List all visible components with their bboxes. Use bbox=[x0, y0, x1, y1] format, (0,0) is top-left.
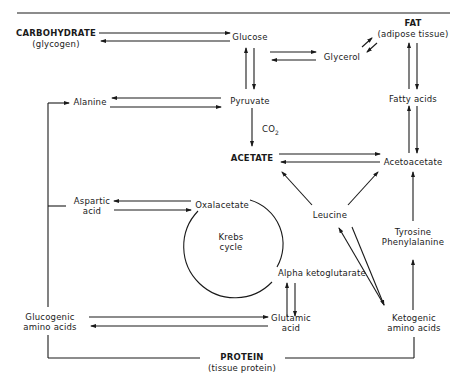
protein-subtitle: (tissue protein) bbox=[208, 363, 276, 373]
co2-label: CO2 bbox=[262, 124, 279, 138]
node-fatty-acids: Fatty acids bbox=[389, 94, 437, 104]
fat-subtitle: (adipose tissue) bbox=[378, 29, 449, 39]
node-glucose: Glucose bbox=[232, 32, 267, 42]
node-aspartic-acid: Aspartic acid bbox=[74, 196, 110, 216]
aspartic-line2: acid bbox=[74, 206, 110, 216]
tyrosine-line1: Tyrosine bbox=[382, 227, 444, 237]
tyrosine-line2: Phenylalanine bbox=[382, 237, 444, 247]
protein-title: PROTEIN bbox=[220, 352, 263, 362]
node-pyruvate: Pyruvate bbox=[230, 96, 269, 106]
glutamic-line2: acid bbox=[271, 323, 311, 333]
glutamic-line1: Glutamic bbox=[271, 313, 311, 323]
node-glutamic-acid: Glutamic acid bbox=[271, 313, 311, 333]
node-alanine: Alanine bbox=[73, 97, 106, 107]
krebs-line1: Krebs bbox=[219, 232, 244, 242]
krebs-line2: cycle bbox=[219, 242, 244, 252]
node-glucogenic-amino-acids: Glucogenic amino acids bbox=[23, 312, 76, 332]
co2-subscript: 2 bbox=[275, 129, 279, 136]
node-leucine: Leucine bbox=[313, 210, 347, 220]
node-tyrosine-phenylalanine: Tyrosine Phenylalanine bbox=[382, 227, 444, 247]
node-krebs-cycle: Krebs cycle bbox=[219, 232, 244, 252]
node-carbohydrate: CARBOHYDRATE bbox=[16, 28, 96, 38]
node-ketogenic-amino-acids: Ketogenic amino acids bbox=[387, 313, 440, 333]
glucogenic-line1: Glucogenic bbox=[23, 312, 76, 322]
carbohydrate-title: CARBOHYDRATE bbox=[16, 28, 96, 38]
aspartic-line1: Aspartic bbox=[74, 196, 110, 206]
glucogenic-line2: amino acids bbox=[23, 322, 76, 332]
carbohydrate-subtitle: (glycogen) bbox=[32, 39, 79, 49]
ketogenic-line2: amino acids bbox=[387, 323, 440, 333]
ketogenic-line1: Ketogenic bbox=[387, 313, 440, 323]
node-glycerol: Glycerol bbox=[324, 52, 360, 62]
co2-text: CO bbox=[262, 124, 275, 134]
node-alpha-ketoglutarate: Alpha ketoglutarate bbox=[278, 268, 366, 278]
node-acetate: ACETATE bbox=[231, 153, 274, 163]
node-acetoacetate: Acetoacetate bbox=[384, 157, 443, 167]
node-oxalacetate: Oxalacetate bbox=[195, 200, 249, 210]
fat-title: FAT bbox=[404, 18, 421, 28]
